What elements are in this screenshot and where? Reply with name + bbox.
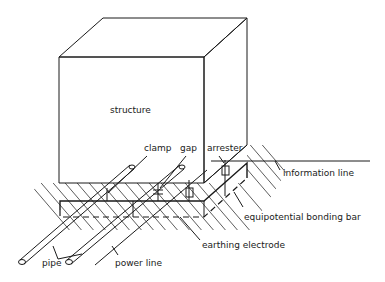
earthing-electrode bbox=[60, 178, 247, 217]
label-arrester: arrester bbox=[207, 143, 243, 153]
structure-box bbox=[59, 18, 247, 183]
label-pipe: pipe bbox=[42, 258, 62, 268]
lightning-protection-diagram: structure clamp gap arrester information… bbox=[0, 0, 385, 282]
label-information-line: information line bbox=[283, 168, 355, 178]
label-clamp: clamp bbox=[144, 143, 172, 153]
label-structure: structure bbox=[110, 105, 151, 115]
label-earthing-electrode: earthing electrode bbox=[202, 240, 286, 250]
label-equipotential-bonding-bar: equipotential bonding bar bbox=[244, 212, 361, 222]
label-power-line: power line bbox=[115, 258, 162, 268]
pipe-left bbox=[19, 165, 136, 265]
ground-hatching bbox=[18, 140, 318, 240]
label-gap: gap bbox=[180, 143, 197, 153]
